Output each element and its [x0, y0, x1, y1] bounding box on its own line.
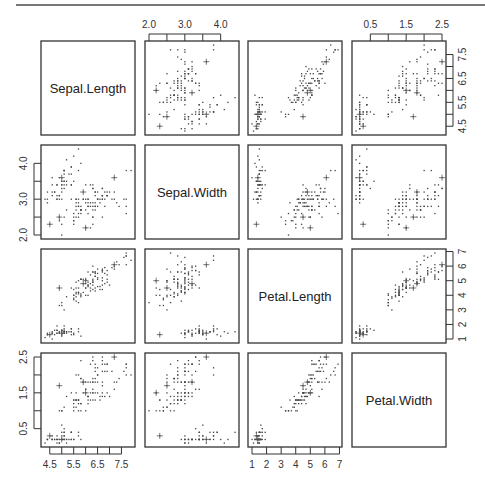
left-tick-label: 4.0	[18, 156, 29, 170]
scatter-panel-petal-length-vs-petal-width	[352, 249, 446, 343]
top-tick-label: 2.0	[142, 19, 156, 30]
right-tick-label: 6.5	[457, 71, 468, 85]
scatter-panel-sepal-width-vs-sepal-length	[41, 145, 135, 239]
diagonal-panel-sepal-length: Sepal.Length	[41, 41, 135, 135]
left-tick-label: 0.5	[18, 421, 29, 435]
left-tick-label: 1.5	[18, 385, 29, 399]
right-tick-label: 7	[457, 248, 468, 254]
right-tick-label: 7.5	[457, 47, 468, 61]
right-tick-label: 6	[457, 263, 468, 269]
left-tick-label: 3.0	[18, 192, 29, 206]
bottom-tick-label: 7	[337, 459, 343, 470]
bottom-tick-label: 6	[322, 459, 328, 470]
variable-label: Sepal.Width	[157, 185, 227, 200]
bottom-tick-label: 5	[308, 459, 314, 470]
right-tick-label: 3	[457, 307, 468, 313]
bottom-tick-label: 3	[278, 459, 284, 470]
diagonal-panel-sepal-width: Sepal.Width	[145, 145, 239, 239]
bottom-tick-label: 2	[264, 459, 270, 470]
bottom-tick-label: 7.5	[114, 459, 128, 470]
bottom-tick-label: 6.5	[91, 459, 105, 470]
scatter-panel-sepal-length-vs-petal-width	[352, 41, 446, 135]
variable-label: Sepal.Length	[50, 81, 127, 96]
scatter-panel-petal-length-vs-sepal-length	[41, 249, 135, 343]
diagonal-panel-petal-width: Petal.Width	[352, 353, 446, 447]
bottom-tick-label: 1	[249, 459, 255, 470]
left-tick-label: 2.0	[18, 228, 29, 242]
bottom-tick-label: 4	[293, 459, 299, 470]
right-tick-label: 4	[457, 292, 468, 298]
top-tick-label: 0.5	[363, 19, 377, 30]
top-tick-label: 4.0	[214, 19, 228, 30]
scatter-panel-petal-width-vs-petal-length	[248, 353, 342, 447]
left-tick-label: 2.5	[18, 350, 29, 364]
bottom-tick-label: 4.5	[43, 459, 57, 470]
scatter-panel-sepal-length-vs-petal-length	[248, 41, 342, 135]
top-tick-label: 2.5	[435, 19, 449, 30]
variable-label: Petal.Width	[366, 393, 432, 408]
scatter-panel-sepal-length-vs-sepal-width	[145, 41, 239, 135]
right-tick-label: 5	[457, 277, 468, 283]
right-tick-label: 1	[457, 336, 468, 342]
scatter-panel-petal-width-vs-sepal-length	[41, 353, 135, 447]
diagonal-panel-petal-length: Petal.Length	[248, 249, 342, 343]
scatterplot-matrix: Sepal.LengthSepal.WidthPetal.LengthPetal…	[0, 0, 485, 482]
right-tick-label: 4.5	[457, 119, 468, 133]
right-tick-label: 2	[457, 321, 468, 327]
variable-label: Petal.Length	[258, 289, 331, 304]
scatter-panel-petal-length-vs-sepal-width	[145, 249, 239, 343]
right-tick-label: 5.5	[457, 95, 468, 109]
scatter-panel-petal-width-vs-sepal-width	[145, 353, 239, 447]
top-tick-label: 3.0	[178, 19, 192, 30]
top-tick-label: 1.5	[399, 19, 413, 30]
scatter-panel-sepal-width-vs-petal-width	[352, 145, 446, 239]
bottom-tick-label: 5.5	[67, 459, 81, 470]
scatter-panel-sepal-width-vs-petal-length	[248, 145, 342, 239]
